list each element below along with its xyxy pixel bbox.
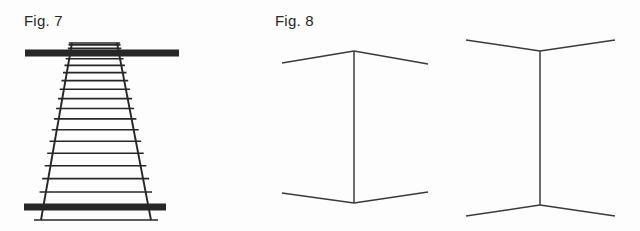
railway-ties-group — [34, 43, 158, 220]
muller-lyer-outward-variant — [282, 51, 428, 203]
illusion-artwork — [0, 0, 640, 231]
muller-lyer-inward-variant — [466, 40, 615, 216]
upper-horizontal-bar — [25, 50, 179, 57]
muller-lyer-illusion-figure — [282, 40, 615, 216]
ponzo-illusion-figure — [24, 43, 179, 220]
lower-horizontal-bar — [24, 204, 166, 211]
top-right-fin — [354, 51, 428, 64]
bottom-right-fin — [540, 205, 615, 216]
top-left-fin — [466, 40, 540, 51]
bottom-left-fin — [282, 193, 354, 203]
bottom-left-fin — [466, 205, 540, 216]
railway-rails-group — [41, 43, 151, 220]
bottom-right-fin — [354, 192, 428, 203]
railway-rail-right — [117, 43, 151, 220]
top-right-fin — [540, 40, 615, 51]
railway-rail-left — [41, 43, 72, 220]
top-left-fin — [282, 51, 354, 63]
figure-page: Fig. 7 Fig. 8 — [0, 0, 640, 231]
